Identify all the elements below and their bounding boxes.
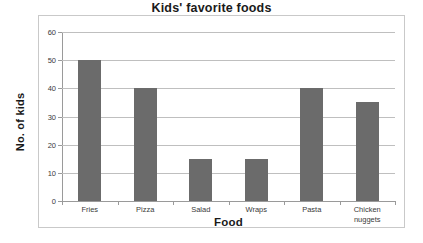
y-axis-tick-label: 60 [38, 28, 56, 37]
bar [356, 102, 379, 201]
y-axis-tick-label: 0 [38, 197, 56, 206]
x-axis-tick-label: Wraps [228, 205, 284, 215]
y-axis-tick-label: 30 [38, 112, 56, 121]
x-axis-tick-label: Fries [62, 205, 118, 215]
bar [78, 60, 101, 201]
y-axis-tick-label: 40 [38, 84, 56, 93]
y-axis-tick-labels: 6050403020100 [36, 32, 56, 202]
bar [134, 88, 157, 201]
bar [245, 159, 268, 201]
y-axis-title: No. of kids [8, 62, 32, 182]
x-axis-tick-label: Pizza [117, 205, 173, 215]
y-axis-tick-label: 50 [38, 56, 56, 65]
bar-series [62, 32, 395, 201]
y-axis-tick-label: 20 [38, 140, 56, 149]
y-axis-tick-label: 10 [38, 168, 56, 177]
x-axis-tick-label: Pasta [284, 205, 340, 215]
y-axis-title-text: No. of kids [14, 93, 26, 151]
x-axis-title: Food [62, 216, 395, 228]
chart-title: Kids' favorite foods [0, 1, 423, 15]
bar [300, 88, 323, 201]
bar [189, 159, 212, 201]
x-axis-tick-label: Salad [173, 205, 229, 215]
